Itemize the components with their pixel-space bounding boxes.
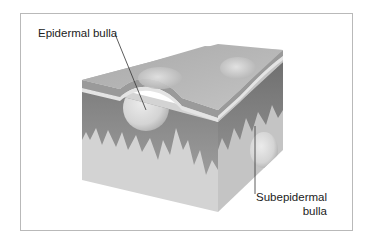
subepidermal-bulla-sphere [250, 132, 278, 168]
label-subepidermal-line2: bulla [256, 204, 327, 218]
label-epidermal-bulla: Epidermal bulla [38, 26, 117, 40]
label-subepidermal-bulla: Subepidermal bulla [256, 190, 327, 218]
label-subepidermal-line1: Subepidermal [256, 190, 327, 204]
